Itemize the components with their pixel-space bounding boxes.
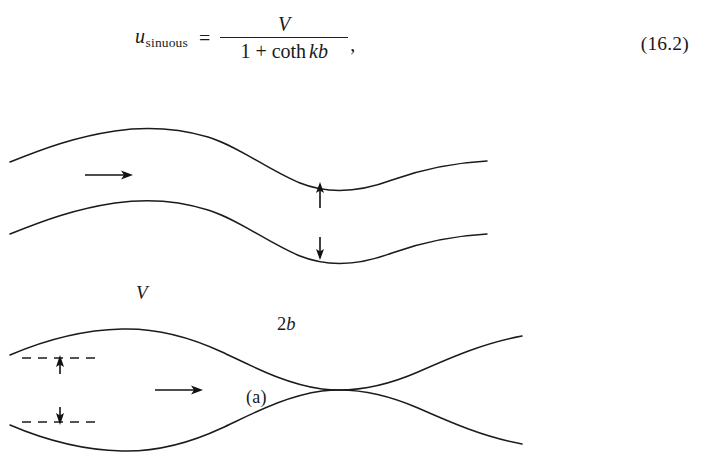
- dimension-arrow-b: [56, 355, 64, 425]
- upper-boundary-curve-a: [10, 129, 487, 191]
- fraction-numerator: V: [272, 14, 296, 37]
- equation-lhs-subscript: sinuous: [145, 35, 188, 50]
- dimension-arrow-a: [316, 182, 324, 260]
- equation-comma: ,: [348, 33, 355, 62]
- equation-lhs: usinuous: [135, 25, 188, 51]
- upper-boundary-curve-b: [10, 329, 522, 390]
- figure-b-drawing: [0, 300, 707, 461]
- denominator-variable: kb: [306, 40, 328, 62]
- equation-expression: usinuous = V 1 + cothkb ,: [135, 14, 355, 62]
- fraction: V 1 + cothkb: [220, 14, 348, 62]
- equation-lhs-variable: u: [135, 25, 145, 47]
- equation-block: usinuous = V 1 + cothkb , (16.2): [0, 0, 707, 104]
- figure-panel-b: V 2b (b): [0, 300, 707, 461]
- equation-number: (16.2): [641, 33, 689, 55]
- figure-panel-a: V 2b (a): [0, 104, 707, 300]
- lower-boundary-curve-a: [10, 201, 487, 264]
- denominator-prefix: 1 + coth: [240, 40, 306, 62]
- flow-arrow-a: [85, 171, 133, 180]
- lower-boundary-curve-b: [10, 390, 522, 451]
- figure-a-drawing: [0, 104, 707, 300]
- fraction-denominator: 1 + cothkb: [236, 38, 332, 62]
- equals-sign: =: [188, 27, 220, 50]
- flow-arrow-b: [155, 386, 203, 395]
